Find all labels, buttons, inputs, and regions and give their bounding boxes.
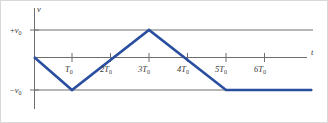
x-label-4: 4T0: [177, 64, 189, 75]
y-label-minus-v0: −v0: [10, 85, 22, 96]
waveform-polyline: [34, 30, 312, 90]
x-label-6: 6T0: [254, 64, 266, 75]
x-label-5-subscript: 0: [224, 69, 227, 75]
x-label-1: T0: [65, 64, 73, 75]
y-label-plus-v0: +v0: [10, 25, 22, 36]
x-label-4-subscript: 0: [186, 69, 189, 75]
x-label-3: 3T0: [137, 64, 150, 75]
y-label-minus-subscript: 0: [19, 90, 22, 96]
plot-canvas: v t +v0 −v0 T0 2T0 3T0 4T0 5T0 6T0: [1, 1, 328, 123]
x-label-2-subscript: 0: [109, 69, 112, 75]
y-axis-label: v: [37, 4, 41, 14]
waveform-figure: v t +v0 −v0 T0 2T0 3T0 4T0 5T0 6T0: [0, 0, 328, 123]
x-axis-label: t: [311, 47, 314, 57]
x-label-2: 2T0: [100, 64, 112, 75]
y-label-plus-subscript: 0: [19, 30, 22, 36]
x-label-5: 5T0: [215, 64, 227, 75]
x-label-3-subscript: 0: [147, 69, 150, 75]
x-label-6-subscript: 0: [263, 69, 266, 75]
x-label-1-subscript: 0: [70, 69, 73, 75]
